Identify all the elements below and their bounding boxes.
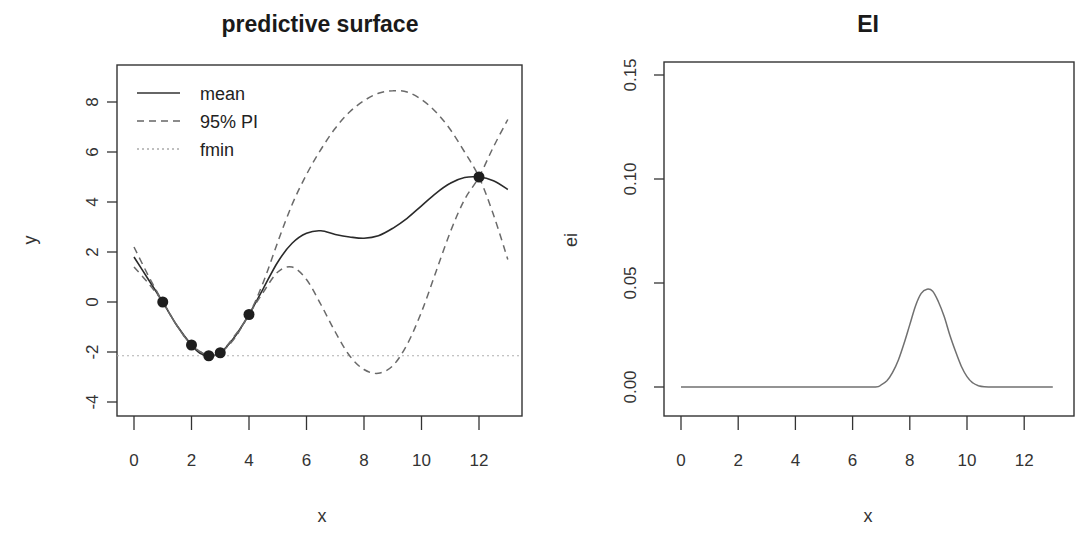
plot-frame	[664, 62, 1074, 416]
y-tick-label: 0.00	[621, 370, 640, 403]
chart-title: predictive surface	[222, 11, 419, 37]
plot-area	[681, 289, 1053, 387]
data-point	[474, 172, 485, 183]
x-tick-label: 2	[733, 451, 742, 470]
x-axis: 024681012	[676, 416, 1033, 470]
chart-title: EI	[857, 11, 879, 37]
x-tick-label: 4	[244, 451, 253, 470]
x-axis-label: x	[864, 506, 873, 526]
x-tick-label: 4	[791, 451, 800, 470]
ei-panel: EI 0.000.050.100.15 024681012 x ei	[561, 11, 1074, 526]
y-axis: 0.000.050.100.15	[621, 58, 664, 403]
x-tick-label: 6	[302, 451, 311, 470]
y-tick-label: 0.05	[621, 266, 640, 299]
y-tick-label: 0.15	[621, 58, 640, 91]
data-point	[157, 297, 168, 308]
legend-pi-label: 95% PI	[200, 112, 258, 132]
x-tick-label: 10	[958, 451, 977, 470]
x-tick-label: 6	[848, 451, 857, 470]
x-axis: 024681012	[129, 416, 488, 470]
y-tick-label: 2	[83, 247, 102, 256]
y-tick-label: -2	[83, 344, 102, 359]
data-point	[215, 347, 226, 358]
x-tick-label: 12	[470, 451, 489, 470]
figure: predictive surface -4-202468 024681012 x…	[0, 0, 1088, 544]
legend-fmin-label: fmin	[200, 140, 234, 160]
y-tick-label: -4	[83, 394, 102, 409]
data-point	[203, 350, 214, 361]
x-tick-label: 8	[905, 451, 914, 470]
y-axis-label: y	[20, 236, 40, 245]
mean-line	[134, 177, 508, 356]
data-point	[186, 340, 197, 351]
pi-lower-line	[134, 120, 508, 374]
predictive-surface-panel: predictive surface -4-202468 024681012 x…	[20, 11, 522, 526]
x-axis-label: x	[318, 506, 327, 526]
x-tick-label: 2	[187, 451, 196, 470]
ei-line	[681, 289, 1053, 387]
legend-mean-label: mean	[200, 84, 245, 104]
legend: mean 95% PI fmin	[137, 84, 258, 160]
y-tick-label: 0.10	[621, 162, 640, 195]
x-tick-label: 12	[1015, 451, 1034, 470]
y-axis-label: ei	[561, 233, 581, 247]
x-tick-label: 10	[412, 451, 431, 470]
y-tick-label: 6	[83, 147, 102, 156]
pi-upper-line	[134, 91, 508, 357]
y-tick-label: 4	[83, 197, 102, 206]
plot-area	[117, 91, 522, 374]
plot-frame	[117, 65, 522, 416]
x-tick-label: 0	[676, 451, 685, 470]
x-tick-label: 8	[359, 451, 368, 470]
y-tick-label: 8	[83, 97, 102, 106]
y-tick-label: 0	[83, 297, 102, 306]
data-point	[244, 309, 255, 320]
y-axis: -4-202468	[83, 97, 117, 409]
x-tick-label: 0	[129, 451, 138, 470]
